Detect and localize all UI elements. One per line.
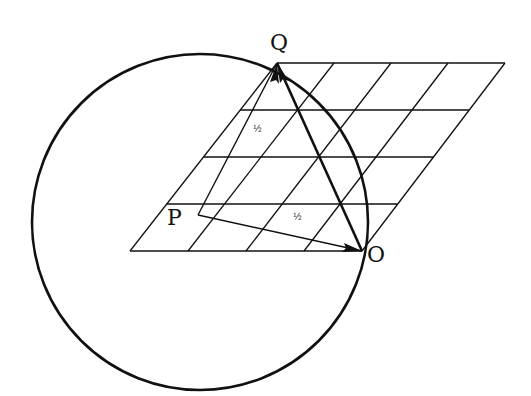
label-O: O	[367, 242, 385, 267]
geometry-svg	[0, 0, 531, 396]
vector-PO	[198, 215, 362, 251]
diagram: Q P O ½ ½	[0, 0, 531, 396]
label-Q: Q	[270, 30, 288, 55]
label-half-PO: ½	[293, 213, 301, 221]
vector-PQ	[198, 63, 277, 215]
circle	[32, 54, 368, 390]
arrowhead-OQ	[277, 63, 289, 83]
label-P: P	[167, 205, 182, 230]
parallelogram-grid	[130, 63, 505, 251]
label-half-PQ: ½	[253, 125, 261, 133]
